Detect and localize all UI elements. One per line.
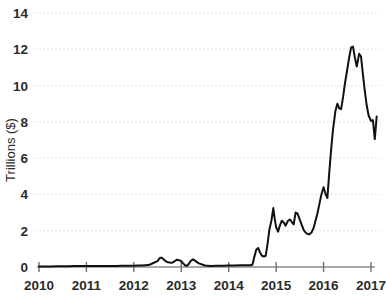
y-tick-label: 2 (20, 224, 28, 239)
x-axis-tick-labels: 20102011201220132014201520162017 (24, 278, 386, 293)
x-tick-label: 2011 (72, 278, 102, 293)
x-tick-label: 2014 (214, 278, 245, 293)
y-tick-label: 8 (20, 115, 28, 130)
x-tick-label: 2012 (119, 278, 149, 293)
y-tick-label: 4 (20, 187, 28, 202)
y-tick-label: 10 (13, 79, 28, 94)
y-tick-label: 6 (20, 151, 28, 166)
x-tick-label: 2017 (356, 278, 386, 293)
x-tick-label: 2016 (309, 278, 340, 293)
data-series-line (39, 47, 377, 267)
x-tick-label: 2015 (261, 278, 292, 293)
x-tick-label: 2010 (24, 278, 54, 293)
y-tick-label: 12 (13, 42, 28, 57)
chart-canvas: 02468101214 2010201120122013201420152016… (0, 0, 386, 306)
y-axis-label: Trillions ($) (3, 118, 18, 182)
y-tick-label: 14 (13, 6, 29, 21)
x-tick-label: 2013 (166, 278, 197, 293)
y-tick-label: 0 (20, 260, 28, 275)
line-chart: 02468101214 2010201120122013201420152016… (0, 0, 386, 306)
